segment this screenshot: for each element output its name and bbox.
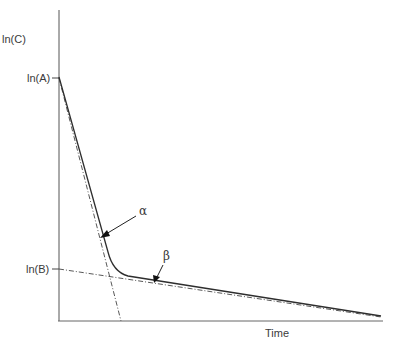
beta-annotation: β	[163, 250, 170, 262]
beta-arrow-shaft	[157, 265, 163, 277]
beta-extrapolation-line	[59, 269, 381, 317]
y-axis-label: ln(C)	[2, 33, 26, 45]
plot-svg	[0, 0, 394, 350]
alpha-arrow-shaft	[106, 216, 136, 234]
tick-label-lnA: ln(A)	[27, 72, 50, 84]
alpha-arrow-head	[100, 230, 110, 238]
alpha-extrapolation-line	[59, 78, 121, 321]
x-axis-label: Time	[265, 327, 289, 339]
beta-arrow-head	[153, 275, 160, 283]
tick-label-lnB: ln(B)	[26, 263, 49, 275]
concentration-curve	[59, 77, 381, 316]
alpha-annotation: α	[139, 205, 147, 217]
